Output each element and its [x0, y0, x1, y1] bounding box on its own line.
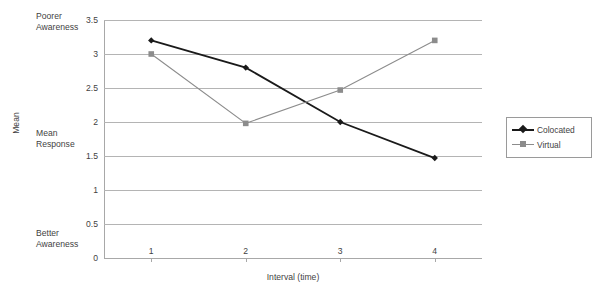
- x-tick-label: 3: [320, 246, 360, 256]
- y-tick-label: 1.5: [72, 151, 98, 161]
- y-tick-label: 0: [72, 253, 98, 263]
- x-tick-label: 1: [131, 246, 171, 256]
- data-point-colocated-1: [148, 37, 154, 43]
- y-axis-title: Mean: [11, 93, 21, 153]
- y-tick-label: 2.5: [72, 83, 98, 93]
- line-chart: Mean Poorer Awareness Mean Response Bett…: [0, 0, 602, 299]
- legend-label: Colocated: [537, 125, 575, 135]
- y-tick-label: 2: [72, 117, 98, 127]
- data-point-virtual-2: [243, 121, 249, 127]
- data-point-virtual-3: [337, 87, 343, 93]
- series-layer: [104, 20, 482, 258]
- y-tick-label: 0.5: [72, 219, 98, 229]
- legend-item-colocated[interactable]: Colocated: [512, 123, 575, 136]
- y-tick-label: 1: [72, 185, 98, 195]
- y-tick-label: 3.5: [72, 15, 98, 25]
- chart-legend: ColocatedVirtual: [506, 117, 592, 158]
- x-tick-label: 4: [415, 246, 455, 256]
- data-point-virtual-4: [432, 38, 438, 44]
- legend-swatch-diamond-icon: [512, 124, 534, 135]
- x-tickmark: [246, 258, 247, 262]
- legend-label: Virtual: [537, 140, 561, 150]
- gridline-0: [104, 258, 482, 259]
- data-point-virtual-1: [148, 51, 154, 57]
- legend-item-virtual[interactable]: Virtual: [512, 138, 561, 151]
- x-tick-label: 2: [226, 246, 266, 256]
- x-axis-title: Interval (time): [104, 272, 482, 282]
- y-tick-label: 3: [72, 49, 98, 59]
- x-tickmark: [340, 258, 341, 262]
- legend-swatch-square-icon: [512, 139, 534, 150]
- data-point-colocated-4: [432, 155, 438, 161]
- plot-area: [104, 20, 482, 258]
- x-tickmark: [435, 258, 436, 262]
- x-tickmark: [151, 258, 152, 262]
- series-line-colocated: [151, 40, 435, 158]
- y-axis-tick-labels: 00.511.522.533.5: [72, 0, 98, 299]
